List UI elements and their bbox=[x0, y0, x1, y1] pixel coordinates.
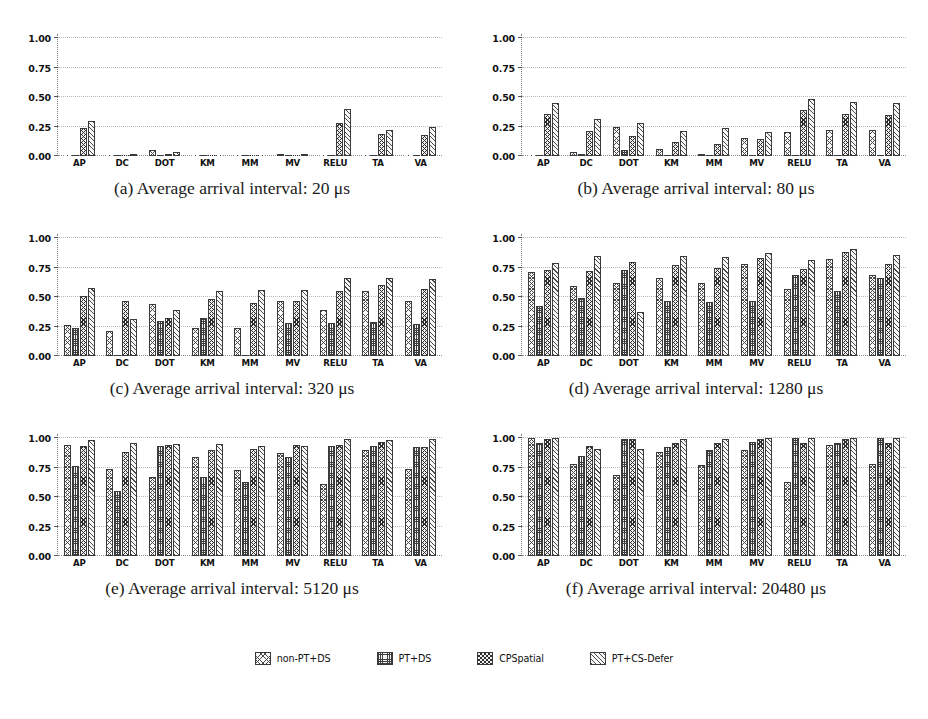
bar bbox=[826, 130, 833, 156]
x-axis-label-dc: DC bbox=[101, 558, 143, 568]
bar bbox=[200, 477, 207, 556]
bar bbox=[842, 439, 849, 556]
x-axis-label-ap: AP bbox=[522, 158, 564, 168]
bar bbox=[72, 328, 79, 356]
plot-area-b: 0.000.250.500.751.00 APDCDOTKMMMMVRELUTA… bbox=[464, 26, 928, 176]
x-axis-label-ap: AP bbox=[58, 358, 100, 368]
x-axis-label-dc: DC bbox=[565, 558, 607, 568]
bar bbox=[680, 256, 687, 356]
y-tick-label: 1.00 bbox=[492, 33, 522, 44]
bar bbox=[405, 155, 412, 156]
x-axis-labels-a: APDCDOTKMMMMVRELUTAVA bbox=[58, 158, 442, 172]
bar bbox=[749, 155, 756, 156]
figure-root: 0.000.250.500.751.00 APDCDOTKMMMMVRELUTA… bbox=[0, 0, 928, 719]
x-axis-label-dot: DOT bbox=[144, 358, 186, 368]
bar bbox=[405, 469, 412, 556]
bar bbox=[672, 443, 679, 556]
panel-caption-c: (c) Average arrival interval: 320 μs bbox=[0, 378, 464, 399]
bar bbox=[320, 310, 327, 356]
bar bbox=[842, 252, 849, 356]
x-axis-label-ta: TA bbox=[357, 558, 399, 568]
bar bbox=[528, 438, 535, 556]
y-tick-label: 0.25 bbox=[492, 321, 522, 332]
x-axis-label-mm: MM bbox=[693, 158, 735, 168]
bar bbox=[293, 445, 300, 556]
y-tick-label: 0.25 bbox=[492, 521, 522, 532]
legend-swatch-icon bbox=[255, 652, 271, 665]
bar-group-ap bbox=[64, 438, 95, 556]
bar bbox=[757, 258, 764, 356]
bar bbox=[869, 275, 876, 356]
x-axis-label-ta: TA bbox=[821, 158, 863, 168]
bar bbox=[285, 323, 292, 356]
bar bbox=[114, 155, 121, 156]
plot-area-a: 0.000.250.500.751.00 APDCDOTKMMMMVRELUTA… bbox=[0, 26, 464, 176]
legend-label: non-PT+DS bbox=[277, 653, 331, 664]
bar bbox=[808, 438, 815, 556]
bar-group-relu bbox=[784, 438, 815, 556]
panel-caption-a: (a) Average arrival interval: 20 μs bbox=[0, 178, 464, 199]
bar bbox=[293, 301, 300, 356]
bar-groups bbox=[522, 438, 906, 556]
x-axis-label-relu: RELU bbox=[314, 158, 356, 168]
bar bbox=[706, 450, 713, 556]
bar bbox=[320, 155, 327, 156]
bar bbox=[192, 328, 199, 356]
bar bbox=[173, 152, 180, 156]
bar bbox=[386, 130, 393, 156]
bar bbox=[413, 447, 420, 556]
bar-group-km bbox=[192, 438, 223, 556]
bar bbox=[656, 452, 663, 556]
bar bbox=[301, 290, 308, 356]
y-tick-label: 0.50 bbox=[492, 492, 522, 503]
bar bbox=[698, 154, 705, 156]
x-axis-label-ta: TA bbox=[821, 558, 863, 568]
bar bbox=[578, 154, 585, 156]
bar-group-ap bbox=[64, 238, 95, 356]
bar bbox=[122, 155, 129, 156]
bar bbox=[114, 355, 121, 356]
legend-item-non-pt-ds: non-PT+DS bbox=[255, 652, 331, 665]
bar bbox=[216, 291, 223, 356]
bar bbox=[552, 438, 559, 556]
panel-f: 0.000.250.500.751.00 APDCDOTKMMMMVRELUTA… bbox=[464, 426, 928, 631]
bar-group-km bbox=[192, 38, 223, 156]
bar-group-ta bbox=[362, 238, 393, 356]
bar bbox=[570, 152, 577, 156]
bar bbox=[885, 264, 892, 356]
bar bbox=[386, 440, 393, 556]
bar bbox=[672, 265, 679, 356]
panel-caption-d: (d) Average arrival interval: 1280 μs bbox=[464, 378, 928, 399]
bar bbox=[842, 114, 849, 156]
bar bbox=[741, 264, 748, 356]
x-axis-label-mm: MM bbox=[229, 558, 271, 568]
bar bbox=[792, 155, 799, 156]
x-axis-label-ap: AP bbox=[58, 158, 100, 168]
bar bbox=[698, 465, 705, 556]
bar bbox=[834, 155, 841, 156]
bar bbox=[784, 482, 791, 556]
bar bbox=[277, 154, 284, 156]
x-axis-label-relu: RELU bbox=[778, 358, 820, 368]
bar bbox=[250, 155, 257, 156]
bar-group-mv bbox=[741, 38, 772, 156]
bar bbox=[165, 318, 172, 356]
bar bbox=[613, 475, 620, 556]
panel-grid: 0.000.250.500.751.00 APDCDOTKMMMMVRELUTA… bbox=[0, 26, 928, 631]
x-axis-label-dot: DOT bbox=[608, 158, 650, 168]
bar-groups bbox=[58, 238, 442, 356]
bar bbox=[192, 155, 199, 156]
bar bbox=[536, 443, 543, 556]
axes-a: 0.000.250.500.751.00 bbox=[58, 38, 442, 156]
bar bbox=[378, 134, 385, 156]
bar bbox=[869, 464, 876, 556]
bar bbox=[528, 155, 535, 156]
bar-group-mv bbox=[741, 238, 772, 356]
bar bbox=[216, 444, 223, 556]
bar bbox=[586, 446, 593, 556]
bar bbox=[536, 306, 543, 356]
x-axis-labels-b: APDCDOTKMMMMVRELUTAVA bbox=[522, 158, 906, 172]
bar bbox=[637, 123, 644, 156]
bar bbox=[544, 114, 551, 156]
x-axis-label-mm: MM bbox=[229, 158, 271, 168]
